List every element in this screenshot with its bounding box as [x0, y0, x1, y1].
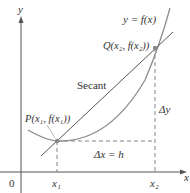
point-q	[153, 46, 157, 50]
point-q-label: Q(x₂, f(x₂))	[103, 40, 150, 52]
curve-label: y = f(x)	[122, 13, 156, 26]
y-axis-arrow-icon	[19, 16, 24, 23]
point-p	[55, 139, 59, 143]
secant-diagram: y x 0 y = f(x) Secant Q(x₂, f(x₂)) P(x₁,…	[0, 0, 190, 193]
p-label-leader	[47, 125, 55, 138]
point-p-label: P(x₁, f(x₁))	[24, 113, 71, 125]
delta-y-label: Δy	[158, 103, 170, 115]
x2-tick-label: x₂	[149, 177, 159, 189]
x-axis: x 0	[0, 170, 189, 190]
y-axis-label: y	[17, 3, 23, 15]
secant-label: Secant	[77, 79, 106, 91]
delta-x-label: Δx = h	[93, 148, 124, 160]
y-axis: y	[17, 3, 24, 193]
origin-label: 0	[9, 177, 15, 189]
x1-tick-label: x₁	[51, 177, 61, 189]
x-axis-label: x	[183, 171, 189, 183]
